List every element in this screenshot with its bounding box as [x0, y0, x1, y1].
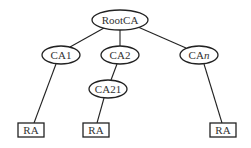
edge-ca21-ra2: [97, 98, 104, 123]
edge-ca1-ra1: [34, 64, 56, 123]
edge-root-ca1: [70, 28, 104, 47]
node-can: CAn: [180, 46, 218, 64]
edge-root-can: [138, 27, 186, 48]
edge-can-ra3: [204, 64, 222, 123]
node-label: RA: [88, 124, 103, 136]
edge-ca2-ca21: [111, 64, 117, 80]
node-rootca: RootCA: [92, 10, 148, 30]
node-label: RA: [23, 124, 38, 136]
ca-hierarchy-diagram: RootCA CA1 CA2 CAn CA21 RA RA RA: [0, 0, 251, 148]
node-label: CAn: [189, 49, 210, 61]
node-ca21: CA21: [89, 80, 127, 98]
node-ra1: RA: [18, 123, 44, 137]
node-label: RootCA: [102, 14, 139, 26]
node-label: RA: [215, 124, 230, 136]
node-ra3: RA: [210, 123, 236, 137]
node-ca2: CA2: [101, 46, 139, 64]
node-ca1: CA1: [42, 46, 80, 64]
node-label: CA2: [110, 49, 131, 61]
node-ra2: RA: [83, 123, 109, 137]
edges: [34, 27, 222, 123]
node-label: CA21: [95, 83, 121, 95]
node-label: CA1: [51, 49, 72, 61]
